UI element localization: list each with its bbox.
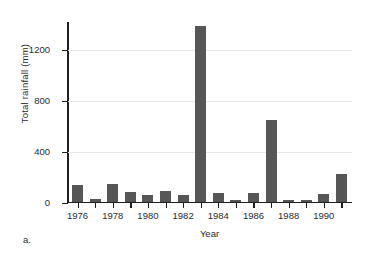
x-axis-minor-tick [95,203,96,208]
x-axis-tick [218,203,219,208]
x-axis-tick [148,203,149,208]
x-axis-minor-tick [341,203,342,208]
y-axis-tick [62,50,68,51]
x-axis-label: 1984 [198,210,238,221]
x-axis-minor-tick [271,203,272,208]
y-axis-tick [62,101,68,102]
x-axis-minor-tick [166,203,167,208]
x-axis-tick [324,203,325,208]
x-axis-label: 1980 [128,210,168,221]
bar [160,191,171,201]
bar [318,194,329,201]
bar [72,185,83,202]
bar [195,26,206,201]
bar [142,195,153,202]
x-axis-label: 1978 [93,210,133,221]
figure-panel: Total rainfall (mm) 04008001200197619781… [0,0,366,257]
bar [90,199,101,202]
x-axis-tick [78,203,79,208]
x-axis-label: 1976 [58,210,98,221]
y-axis-tick [62,203,68,204]
gridline [67,101,352,102]
y-axis-tick [62,152,68,153]
y-axis-title: Total rainfall (mm) [19,14,30,154]
x-axis-label: 1988 [269,210,309,221]
y-axis-label: 1200 [10,44,50,55]
bar [230,200,241,202]
gridline [67,152,352,153]
x-axis-label: 1982 [163,210,203,221]
plot-area: 0400800120019761978198019821984198619881… [67,22,352,203]
x-axis-minor-tick [236,203,237,208]
x-axis-title: Year [67,228,352,239]
bar [266,120,277,202]
bar [213,193,224,202]
x-axis-tick [183,203,184,208]
bar [107,184,118,202]
bar [248,193,259,202]
x-axis-minor-tick [130,203,131,208]
y-axis-label: 800 [10,95,50,106]
figure-caption: a. [23,234,31,245]
y-axis-label: 400 [10,146,50,157]
bar [178,195,189,202]
x-axis-tick [113,203,114,208]
x-axis-tick [289,203,290,208]
x-axis-tick [253,203,254,208]
x-axis-label: 1990 [304,210,344,221]
bar [301,200,312,202]
x-axis-minor-tick [306,203,307,208]
bar [283,200,294,202]
bar [125,192,136,202]
gridline [67,50,352,51]
x-axis-label: 1986 [233,210,273,221]
x-axis-minor-tick [201,203,202,208]
x-axis-line [67,202,352,204]
bar [336,174,347,201]
y-axis-label: 0 [10,197,50,208]
